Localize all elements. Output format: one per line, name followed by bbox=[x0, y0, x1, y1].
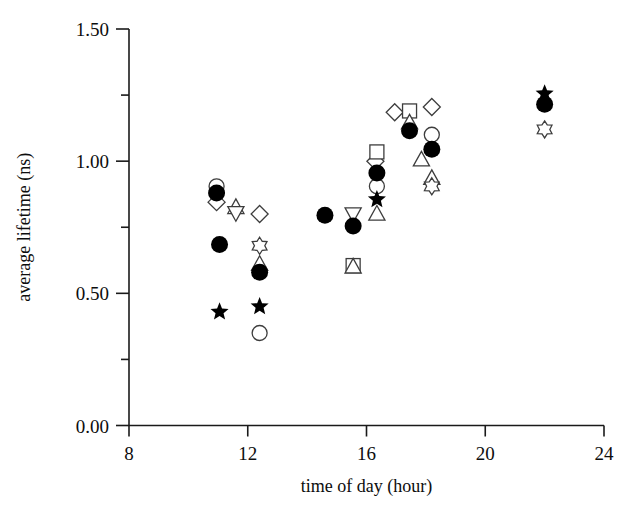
y-axis-title: average lifetime (ns) bbox=[14, 153, 35, 302]
marker-circle-filled bbox=[211, 236, 228, 253]
marker-circle-filled bbox=[423, 141, 440, 158]
marker-circle-filled bbox=[208, 184, 225, 201]
marker-star-open bbox=[252, 237, 267, 254]
marker-circle-open bbox=[252, 325, 267, 340]
x-tick-label-12: 12 bbox=[238, 443, 257, 464]
marker-circle-filled bbox=[368, 165, 385, 182]
scatter-plot-figure: 8121620240.000.501.001.50time of day (ho… bbox=[0, 0, 634, 510]
y-tick-label-1.5: 1.50 bbox=[76, 19, 109, 40]
x-axis-title: time of day (hour) bbox=[301, 476, 432, 497]
marker-circle-filled bbox=[345, 217, 362, 234]
marker-diamond-open bbox=[251, 206, 268, 223]
y-tick-label-0.5: 0.50 bbox=[76, 283, 109, 304]
x-tick-label-20: 20 bbox=[476, 443, 495, 464]
marker-circle-filled bbox=[316, 207, 333, 224]
plot-canvas: 8121620240.000.501.001.50time of day (ho… bbox=[0, 0, 634, 510]
y-tick-label-1: 1.00 bbox=[76, 151, 109, 172]
marker-circle-filled bbox=[401, 122, 418, 139]
marker-star-filled bbox=[211, 302, 229, 319]
x-tick-label-24: 24 bbox=[595, 443, 615, 464]
marker-square-open bbox=[370, 145, 384, 159]
x-tick-label-8: 8 bbox=[124, 443, 134, 464]
x-tick-label-16: 16 bbox=[357, 443, 376, 464]
marker-circle-open bbox=[424, 127, 439, 142]
marker-star-filled bbox=[251, 297, 269, 314]
y-tick-label-0: 0.00 bbox=[76, 416, 109, 437]
marker-diamond-open bbox=[386, 104, 403, 121]
marker-circle-filled bbox=[251, 264, 268, 281]
marker-circle-filled bbox=[536, 96, 553, 113]
marker-triangle-up-open bbox=[369, 206, 385, 221]
marker-star-open bbox=[537, 121, 552, 138]
marker-diamond-open bbox=[423, 98, 440, 115]
